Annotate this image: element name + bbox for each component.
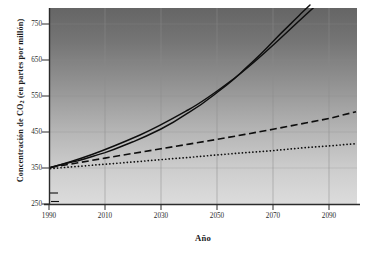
y-tick-marks xyxy=(42,24,49,204)
plot-background xyxy=(49,8,357,204)
chart-figure: Concentración de CO2 (en partes por mill… xyxy=(0,0,373,262)
chart-plot-svg xyxy=(0,0,373,262)
